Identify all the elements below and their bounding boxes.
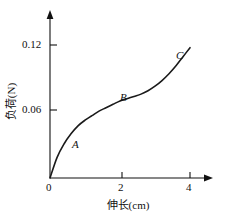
y-tick-label-006: 0.06 <box>22 104 41 115</box>
x-axis-right-arrow-icon <box>204 175 213 182</box>
x-axis-title: 伸长(cm) <box>78 200 178 211</box>
curve-point-label-c: C <box>176 50 183 61</box>
y-axis-up-arrow-icon <box>47 10 54 19</box>
y-axis-title: 负荷(N) <box>6 72 17 132</box>
x-tick-label-2: 2 <box>118 182 124 193</box>
x-tick-label-0: 0 <box>46 182 52 193</box>
x-tick-label-4: 4 <box>186 182 192 193</box>
curve-point-label-a: A <box>72 139 79 150</box>
y-tick-label-012: 0.12 <box>22 39 41 50</box>
load-extension-curve <box>50 48 190 178</box>
curve-point-label-b: B <box>120 92 127 103</box>
load-extension-chart: 0.12 0.06 0 2 4 负荷(N) 伸长(cm) A B C <box>0 0 230 222</box>
